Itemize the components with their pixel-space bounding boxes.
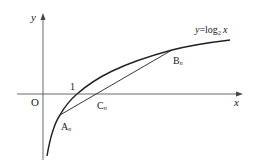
- tick-one-label: 1: [70, 81, 75, 92]
- y-axis-label: y: [30, 11, 36, 23]
- point-Cn-label: Cn: [97, 100, 107, 111]
- x-axis-label: x: [233, 96, 239, 108]
- point-Bn-label: Bn: [173, 55, 183, 66]
- y-axis: [41, 13, 46, 160]
- log-graph-diagram: y x O 1 An Cn Bn y=log2x: [0, 0, 253, 166]
- origin-label: O: [31, 96, 39, 108]
- x-axis: [17, 92, 243, 97]
- y-axis-arrow-icon: [41, 13, 46, 20]
- point-An-label: An: [61, 121, 71, 132]
- log-curve: [47, 40, 230, 156]
- function-label: y=log2x: [194, 24, 228, 36]
- chord-AnBn: [60, 50, 172, 115]
